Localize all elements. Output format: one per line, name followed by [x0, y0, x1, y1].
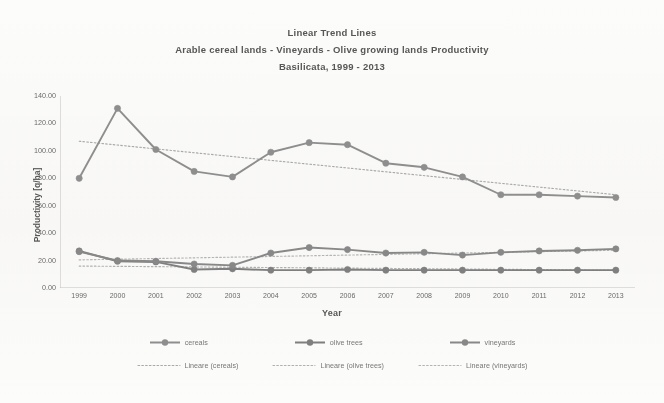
chart-title: Linear Trend Lines [0, 24, 664, 41]
legend-item-Lineare-olive-trees[interactable]: Lineare (olive trees) [272, 361, 384, 370]
data-point [574, 267, 580, 273]
data-point [383, 250, 389, 256]
x-tick-label: 2002 [176, 292, 212, 299]
trendline-0 [79, 141, 616, 194]
legend-trend-swatch [418, 362, 462, 369]
legend-trendlines: Lineare (cereals)Lineare (olive trees)Li… [0, 361, 664, 370]
x-axis-title: Year [0, 308, 664, 318]
plot-svg [60, 96, 635, 288]
data-point [344, 142, 350, 148]
data-point [383, 267, 389, 273]
data-point [421, 267, 427, 273]
series-cereals [76, 105, 619, 200]
legend-marker-swatch [449, 338, 481, 347]
y-tick-label: 120.00 [10, 118, 56, 127]
data-point [536, 192, 542, 198]
x-tick-label: 2007 [368, 292, 404, 299]
data-point [153, 258, 159, 264]
data-point [574, 247, 580, 253]
y-tick-label: 0.00 [10, 283, 56, 292]
data-point [536, 267, 542, 273]
data-point [268, 250, 274, 256]
legend-item-Lineare-cereals[interactable]: Lineare (cereals) [137, 361, 239, 370]
plot-area [60, 96, 635, 288]
legend-label: vineyards [485, 338, 516, 347]
legend-item-cereals[interactable]: cereals [149, 338, 208, 347]
legend-series: cerealsolive treesvineyards [0, 338, 664, 347]
data-point [191, 168, 197, 174]
data-point [613, 267, 619, 273]
chart-title-block: Linear Trend Lines Arable cereal lands -… [0, 24, 664, 75]
y-tick-label: 140.00 [10, 91, 56, 100]
x-tick-label: 2001 [138, 292, 174, 299]
chart-subtitle-1: Arable cereal lands - Vineyards - Olive … [0, 41, 664, 58]
data-point [306, 244, 312, 250]
data-point [421, 164, 427, 170]
axes [60, 96, 635, 288]
data-point [459, 252, 465, 258]
legend-item-olive-trees[interactable]: olive trees [294, 338, 363, 347]
data-point [114, 105, 120, 111]
x-tick-label: 2006 [330, 292, 366, 299]
data-point [76, 175, 82, 181]
x-tick-label: 2005 [291, 292, 327, 299]
data-point [306, 140, 312, 146]
x-tick-label: 1999 [61, 292, 97, 299]
x-tick-label: 2011 [521, 292, 557, 299]
data-point [229, 262, 235, 268]
legend-label: Lineare (cereals) [185, 361, 239, 370]
x-tick-label: 2003 [215, 292, 251, 299]
data-point [498, 267, 504, 273]
y-tick-label: 20.00 [10, 256, 56, 265]
legend-label: olive trees [330, 338, 363, 347]
data-point [383, 160, 389, 166]
legend-item-vineyards[interactable]: vineyards [449, 338, 516, 347]
chart-figure: Linear Trend Lines Arable cereal lands -… [0, 0, 664, 403]
data-point [268, 267, 274, 273]
legend-trend-swatch [137, 362, 181, 369]
legend-label: Lineare (vineyards) [466, 361, 528, 370]
x-tick-label: 2010 [483, 292, 519, 299]
x-tick-label: 2000 [100, 292, 136, 299]
x-tick-label: 2004 [253, 292, 289, 299]
data-point [76, 249, 82, 255]
chart-subtitle-2: Basilicata, 1999 - 2013 [0, 58, 664, 75]
data-point [459, 174, 465, 180]
data-point [153, 146, 159, 152]
data-point [306, 267, 312, 273]
data-point [268, 149, 274, 155]
data-point [498, 192, 504, 198]
x-tick-label: 2009 [445, 292, 481, 299]
legend-label: cereals [185, 338, 208, 347]
data-point [114, 257, 120, 263]
data-point [536, 248, 542, 254]
data-point [459, 267, 465, 273]
x-tick-label: 2013 [598, 292, 634, 299]
legend-label: Lineare (olive trees) [320, 361, 384, 370]
legend-marker-swatch [149, 338, 181, 347]
data-point [421, 249, 427, 255]
data-point [574, 193, 580, 199]
y-tick-label: 80.00 [10, 173, 56, 182]
x-tick-label: 2012 [560, 292, 596, 299]
data-point [498, 249, 504, 255]
data-point [344, 247, 350, 253]
y-tick-label: 100.00 [10, 146, 56, 155]
data-point [344, 266, 350, 272]
data-point [613, 246, 619, 252]
data-point [613, 194, 619, 200]
legend-item-Lineare-vineyards[interactable]: Lineare (vineyards) [418, 361, 528, 370]
legend-trend-swatch [272, 362, 316, 369]
data-point [229, 174, 235, 180]
y-tick-label: 40.00 [10, 228, 56, 237]
data-point [191, 261, 197, 267]
y-tick-label: 60.00 [10, 201, 56, 210]
x-tick-label: 2008 [406, 292, 442, 299]
legend-marker-swatch [294, 338, 326, 347]
